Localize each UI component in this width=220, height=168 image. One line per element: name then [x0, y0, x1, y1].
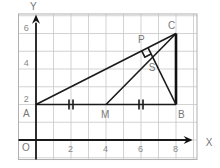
y-tick-label: 4: [24, 58, 29, 68]
origin-label: O: [22, 142, 30, 153]
point-label-M: M: [101, 109, 109, 120]
axes: [19, 15, 193, 160]
x-tick-label: 4: [103, 144, 108, 154]
y-axis-label: Y: [30, 1, 37, 12]
x-axis-label: X: [206, 137, 213, 148]
y-tick-label: 6: [24, 23, 29, 33]
labels: ABCMPSOXY2468246: [22, 1, 213, 154]
segment-BP: [148, 48, 176, 105]
point-label-A: A: [23, 108, 30, 119]
geometry-figure: ABCMPSOXY2468246: [0, 0, 220, 168]
x-tick-label: 6: [138, 144, 143, 154]
point-label-P: P: [138, 34, 145, 45]
y-tick-label: 2: [24, 94, 29, 104]
x-tick-label: 8: [173, 144, 178, 154]
point-label-C: C: [168, 20, 175, 31]
point-label-S: S: [149, 62, 156, 73]
point-label-B: B: [178, 109, 185, 120]
x-tick-label: 2: [68, 144, 73, 154]
